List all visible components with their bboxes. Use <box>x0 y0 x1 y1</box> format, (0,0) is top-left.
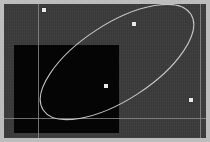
drawing-canvas[interactable] <box>4 4 206 138</box>
handle-top-right[interactable] <box>132 22 136 26</box>
application-window <box>0 0 210 142</box>
vector-layer <box>4 4 206 138</box>
rotated-ellipse-shape[interactable] <box>23 4 206 138</box>
handle-center[interactable] <box>104 84 108 88</box>
handle-bottom-right[interactable] <box>189 98 193 102</box>
handle-top-left[interactable] <box>42 8 46 12</box>
